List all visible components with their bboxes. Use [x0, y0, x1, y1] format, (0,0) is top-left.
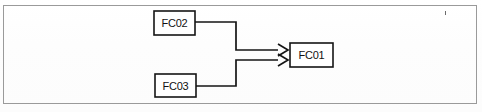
figure-root: FC02 FC03 FC01 [0, 0, 482, 112]
node-fc01-label: FC01 [298, 49, 324, 61]
connector-fc03-to-fc01 [196, 54, 288, 86]
node-fc03[interactable]: FC03 [155, 74, 196, 97]
node-fc03-label: FC03 [162, 80, 188, 92]
block-diagram-canvas: FC02 FC03 FC01 [0, 0, 482, 112]
connector-fc02-to-fc01 [195, 22, 288, 56]
node-fc02-label: FC02 [161, 17, 187, 29]
connector-fc02-path [195, 22, 278, 50]
arrowhead-fc03-to-fc01-icon [278, 54, 288, 66]
connector-fc03-path [196, 60, 278, 86]
node-fc02[interactable]: FC02 [154, 11, 195, 35]
scan-artifact-speck [445, 11, 446, 15]
node-fc01[interactable]: FC01 [290, 43, 333, 67]
